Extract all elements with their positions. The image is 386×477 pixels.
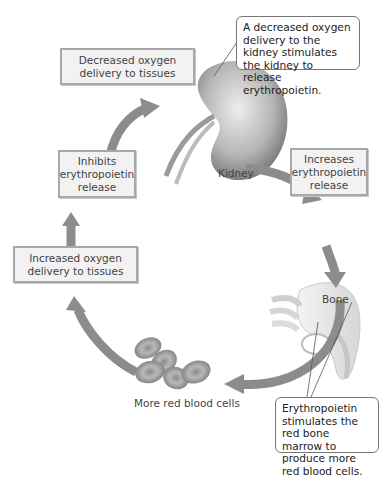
box-increases-erythropoietin: Increases erythropoietin release bbox=[290, 148, 368, 196]
box-inhibits-erythropoietin-text: Inhibits erythropoietin release bbox=[60, 155, 134, 194]
callout-bone-marrow-text: Erythropoietin stimulates the red bone m… bbox=[282, 402, 363, 477]
box-increases-erythropoietin-text: Increases erythropoietin release bbox=[292, 153, 366, 192]
box-increased-oxygen-text: Increased oxygen delivery to tissues bbox=[19, 252, 132, 278]
kidney-label: Kidney bbox=[218, 167, 254, 179]
bone-label: Bone bbox=[322, 293, 349, 305]
box-inhibits-erythropoietin: Inhibits erythropoietin release bbox=[58, 150, 136, 198]
callout-bone-marrow: Erythropoietin stimulates the red bone m… bbox=[275, 397, 379, 453]
callout-kidney: A decreased oxygen delivery to the kidne… bbox=[236, 16, 360, 70]
box-decreased-oxygen-text: Decreased oxygen delivery to tissues bbox=[66, 54, 189, 80]
box-decreased-oxygen: Decreased oxygen delivery to tissues bbox=[60, 48, 195, 85]
red-blood-cells-illustration bbox=[131, 333, 214, 393]
box-increased-oxygen: Increased oxygen delivery to tissues bbox=[13, 246, 138, 283]
rbc-label: More red blood cells bbox=[134, 397, 240, 409]
